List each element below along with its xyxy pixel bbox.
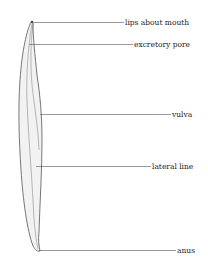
label-lateral-text: lateral line <box>152 162 194 171</box>
label-anus-text: anus <box>177 246 195 255</box>
worm-outline <box>19 22 42 251</box>
label-lips-text: lips about mouth <box>125 18 189 27</box>
label-vulva-text: vulva <box>171 110 193 119</box>
label-excretory-text: excretory pore <box>134 40 191 49</box>
label-excretory: excretory pore <box>29 40 191 49</box>
mouth-dot <box>31 21 33 23</box>
nematode-diagram: lips about mouth excretory pore vulva la… <box>0 0 208 264</box>
label-anus: anus <box>39 246 195 255</box>
label-lips: lips about mouth <box>33 18 189 27</box>
worm-body <box>19 21 42 251</box>
label-vulva: vulva <box>40 110 193 119</box>
label-lateral: lateral line <box>36 162 194 171</box>
